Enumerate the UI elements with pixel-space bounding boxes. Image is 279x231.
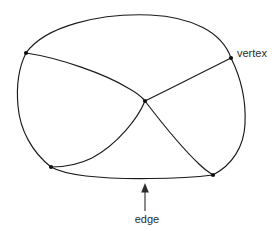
vertex-center — [143, 99, 147, 103]
edge-outer-top — [26, 15, 231, 58]
vertex-bottom-right — [211, 173, 215, 177]
edge-outer-right — [213, 58, 245, 175]
edge-center-to-bottomright — [145, 101, 213, 175]
edge-right-to-center — [145, 58, 231, 101]
edge-outer-left — [17, 53, 51, 167]
edge-annotation-label: edge — [135, 213, 159, 225]
vertex-top-left — [24, 51, 28, 55]
vertex-bottom-left — [49, 165, 53, 169]
edge-topleft-to-center — [26, 53, 145, 101]
vertex-annotation-label: vertex — [237, 47, 267, 59]
edge-outer-bottom — [51, 167, 213, 179]
arrow-up-icon — [141, 183, 149, 193]
vertex-right — [229, 56, 233, 60]
planar-graph-canvas: vertex edge — [0, 0, 279, 231]
edge-center-to-bottomleft — [51, 101, 145, 167]
edge-annotation-leader — [141, 183, 149, 211]
diagram-root: vertex edge — [0, 0, 279, 231]
